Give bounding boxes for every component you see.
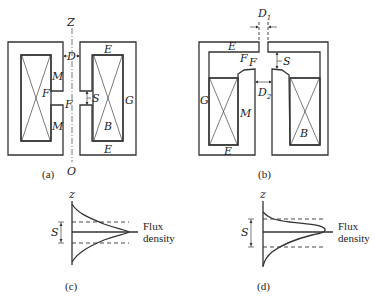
label-s-c: S (51, 226, 59, 239)
legend-flux-c: Flux (143, 220, 164, 232)
figure-canvas: Z O D S M M F F E E G B (a) (0, 0, 375, 301)
label-e-top-b: E (227, 40, 236, 53)
legend-density-c: density (143, 232, 175, 244)
legend-flux-d: Flux (338, 220, 359, 232)
label-f1-b: F (239, 52, 248, 65)
label-d: D (66, 50, 76, 63)
flux-curve-c (72, 204, 129, 262)
flux-curve-d (263, 212, 325, 266)
label-m-top: M (51, 70, 64, 83)
label-g: G (125, 94, 134, 107)
panel-b: D1 S D2 E E F F G M B (b) (199, 7, 328, 181)
axis-z-label: Z (66, 16, 75, 29)
label-m-b: M (239, 107, 252, 120)
caption-a: (a) (42, 168, 55, 181)
caption-b: (b) (258, 168, 271, 181)
label-d2: D2 (257, 86, 272, 101)
label-e-top: E (103, 43, 112, 56)
label-d1: D1 (257, 7, 271, 22)
label-f2-b: F (248, 56, 257, 69)
label-s-d: S (241, 226, 249, 239)
axis-z-label-c: z (68, 188, 75, 201)
caption-d: (d) (257, 280, 270, 293)
label-g-b: G (200, 94, 209, 107)
label-s: S (92, 92, 100, 105)
label-b: B (103, 120, 112, 133)
label-f-gap: F (64, 98, 73, 111)
axis-z-label-d: z (259, 188, 266, 201)
caption-c: (c) (65, 280, 78, 293)
label-s-b: S (283, 55, 291, 68)
legend-density-d: density (338, 232, 370, 244)
panel-a: Z O D S M M F F E E G B (a) (8, 16, 136, 181)
label-m-bottom: M (51, 120, 64, 133)
label-e-bottom-b: E (223, 145, 232, 158)
panel-d: z S Flux density (d) (241, 188, 370, 293)
label-b-b: B (299, 127, 308, 140)
label-e-bottom: E (103, 143, 112, 156)
axis-o-label: O (67, 165, 76, 178)
label-f-left: F (41, 87, 50, 100)
panel-c: z S Flux density (c) (51, 188, 175, 293)
